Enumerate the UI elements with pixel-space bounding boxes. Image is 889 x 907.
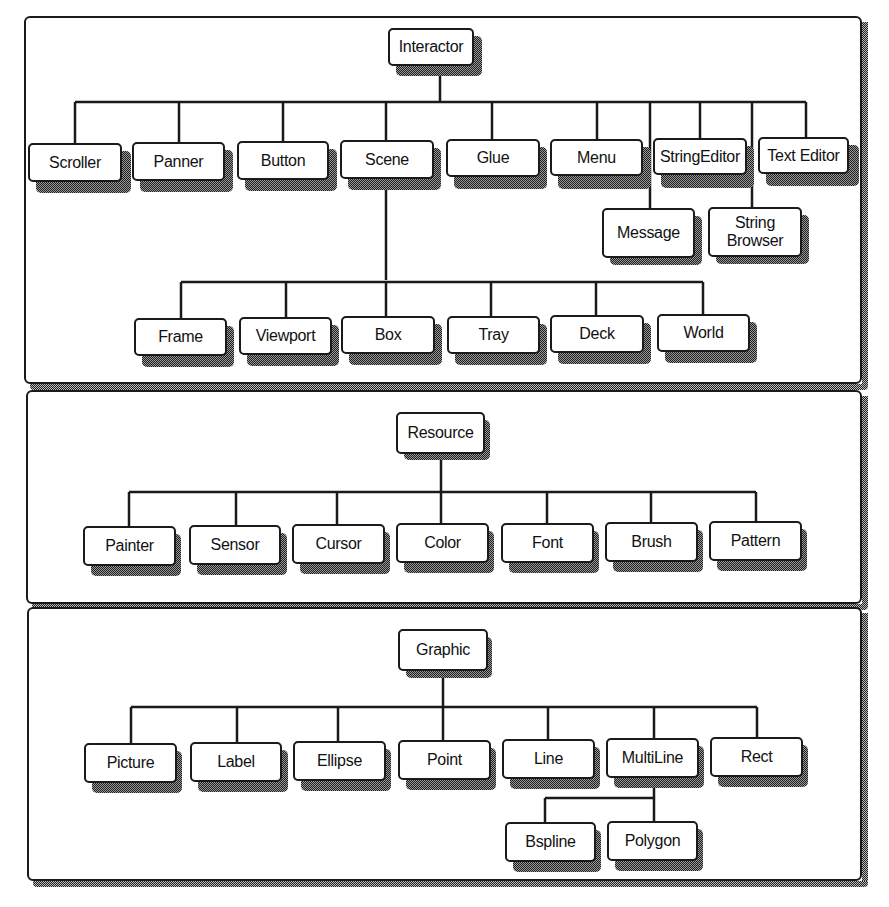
node-label-line-1: String xyxy=(735,214,775,232)
node-label: Deck xyxy=(579,325,614,343)
node-button: Button xyxy=(237,141,329,180)
node-interactor: Interactor xyxy=(388,28,474,66)
node-label: Menu xyxy=(577,149,616,167)
node-label: Painter xyxy=(105,537,154,555)
node-label: Picture xyxy=(107,754,155,772)
node-message: Message xyxy=(602,208,695,258)
node-label: Font xyxy=(532,534,563,552)
node-label: Scene xyxy=(365,151,409,169)
node-point: Point xyxy=(398,740,491,780)
node-deck: Deck xyxy=(550,315,644,353)
node-label: Tray xyxy=(478,326,508,344)
node-sensor: Sensor xyxy=(189,525,281,565)
node-rect: Rect xyxy=(710,737,803,777)
node-label: Viewport xyxy=(256,327,316,345)
node-label: Graphic xyxy=(416,641,470,659)
node-scroller: Scroller xyxy=(28,143,122,182)
node-label: Message xyxy=(617,224,680,242)
node-label: Ellipse xyxy=(317,752,362,770)
node-cursor: Cursor xyxy=(292,524,385,564)
node-label: Polygon xyxy=(625,832,681,850)
node-label: Resource xyxy=(407,424,473,442)
node-resource: Resource xyxy=(396,412,485,454)
node-label: Rect xyxy=(741,748,773,766)
node-label: StringEditor xyxy=(660,148,740,166)
node-color: Color xyxy=(396,523,489,563)
node-label: Color xyxy=(424,534,461,552)
node-stringeditor: StringEditor xyxy=(653,138,747,175)
node-pattern: Pattern xyxy=(709,521,802,561)
node-label: Cursor xyxy=(315,535,361,553)
node-glue: Glue xyxy=(446,139,540,177)
node-label: Label xyxy=(217,753,255,771)
node-frame: Frame xyxy=(134,318,227,356)
node-label: Pattern xyxy=(731,532,781,550)
node-label: Sensor xyxy=(211,536,260,554)
node-label: Scroller xyxy=(49,154,101,172)
node-label-line-2: Browser xyxy=(727,232,784,250)
node-multiline: MultiLine xyxy=(606,738,699,778)
node-label: World xyxy=(684,324,724,342)
node-label: Panner xyxy=(154,153,204,171)
node-font: Font xyxy=(501,523,594,563)
node-polygon: Polygon xyxy=(607,821,698,861)
node-line: Line xyxy=(502,739,595,779)
node-label: Brush xyxy=(631,533,671,551)
node-label: Glue xyxy=(477,149,510,167)
node-world: World xyxy=(657,314,750,352)
node-graphic: Graphic xyxy=(398,629,488,671)
node-panner: Panner xyxy=(132,142,225,181)
node-label: Line xyxy=(534,750,563,768)
node-label-class: Label xyxy=(190,742,282,782)
node-scene: Scene xyxy=(340,140,434,179)
node-box: Box xyxy=(341,316,435,354)
node-painter: Painter xyxy=(83,526,176,566)
node-menu: Menu xyxy=(550,139,643,176)
node-label: MultiLine xyxy=(622,749,683,767)
node-ellipse: Ellipse xyxy=(293,741,386,781)
node-brush: Brush xyxy=(605,522,698,562)
node-string-browser: String Browser xyxy=(708,207,802,257)
node-label: Box xyxy=(375,326,402,344)
node-text-editor: Text Editor xyxy=(758,137,849,174)
node-label: Bspline xyxy=(525,833,575,851)
node-bspline: Bspline xyxy=(505,822,596,862)
node-label: Frame xyxy=(158,328,203,346)
node-label: Point xyxy=(427,751,462,769)
node-picture: Picture xyxy=(84,743,177,783)
node-label: Text Editor xyxy=(767,147,839,165)
node-label: Interactor xyxy=(399,38,464,56)
node-tray: Tray xyxy=(447,316,540,354)
node-viewport: Viewport xyxy=(239,317,332,355)
node-label: Button xyxy=(261,152,305,170)
